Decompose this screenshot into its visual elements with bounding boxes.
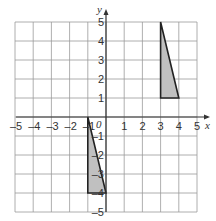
y-axis-label: y <box>96 3 102 15</box>
x-axis-label: x <box>204 119 210 131</box>
y-tick-label: 1 <box>98 92 104 104</box>
coordinate-grid: x y 0 –5–4–3–2–11234554321–1–2–3–4–5 <box>0 0 216 221</box>
y-tick-label: 5 <box>98 16 104 28</box>
y-tick-label: 3 <box>98 54 104 66</box>
x-tick-label: 3 <box>158 120 164 132</box>
x-tick-label: –2 <box>65 120 77 132</box>
origin-label: 0 <box>96 118 102 130</box>
x-tick-label: –4 <box>28 120 40 132</box>
y-tick-label: –4 <box>92 187 104 199</box>
x-tick-label: 2 <box>139 120 145 132</box>
y-axis-arrow-icon <box>104 9 109 15</box>
y-tick-label: –5 <box>92 206 104 218</box>
y-tick-label: –2 <box>92 149 104 161</box>
axes: x y 0 <box>16 3 210 212</box>
x-tick-label: –5 <box>10 120 22 132</box>
y-tick-label: –1 <box>92 130 104 142</box>
x-tick-label: 5 <box>194 120 200 132</box>
y-tick-label: 4 <box>98 35 104 47</box>
x-tick-label: 4 <box>176 120 182 132</box>
y-tick-label: –3 <box>92 168 104 180</box>
y-tick-label: 2 <box>98 73 104 85</box>
x-tick-label: –3 <box>46 120 58 132</box>
x-tick-label: 1 <box>121 120 127 132</box>
